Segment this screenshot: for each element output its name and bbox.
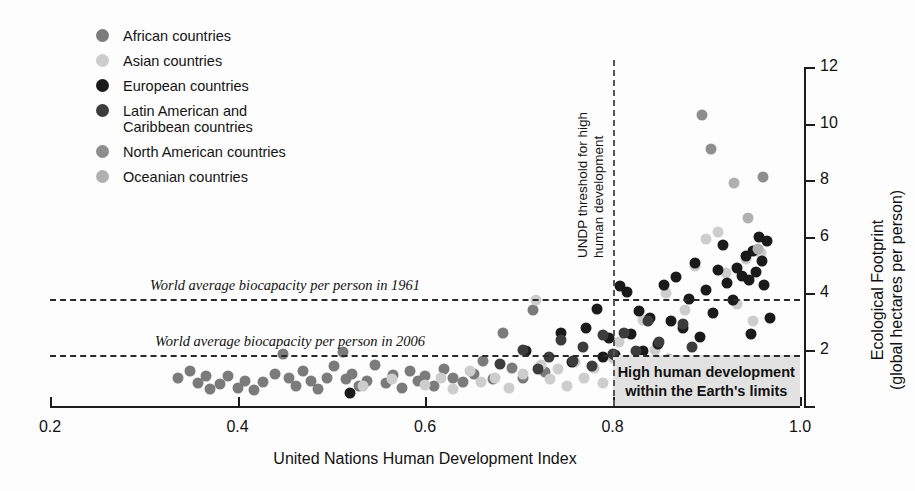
data-point xyxy=(679,304,690,315)
y-axis-title: Ecological Footprint (global hectares pe… xyxy=(868,190,906,390)
data-point xyxy=(598,378,609,389)
y-tick-12 xyxy=(804,67,815,69)
biocapacity-1961-label: World average biocapacity per person in … xyxy=(150,277,420,294)
y-tick-6 xyxy=(804,237,815,239)
x-axis-title: United Nations Human Development Index xyxy=(273,450,576,468)
data-point xyxy=(752,244,763,255)
data-point xyxy=(643,316,654,327)
data-point xyxy=(694,331,705,342)
data-point xyxy=(555,334,566,345)
data-point xyxy=(321,372,332,383)
data-point xyxy=(765,313,776,324)
data-point xyxy=(712,227,723,238)
data-point xyxy=(532,364,543,375)
plot-area xyxy=(0,0,915,491)
data-point xyxy=(746,328,757,339)
data-point xyxy=(448,384,459,395)
data-point xyxy=(743,213,754,224)
data-point xyxy=(313,384,324,395)
y-tick-0 xyxy=(804,406,815,408)
data-point xyxy=(507,362,518,373)
data-point xyxy=(561,381,572,392)
data-point xyxy=(457,376,468,387)
data-point xyxy=(591,303,602,314)
data-point xyxy=(705,143,716,154)
data-point xyxy=(518,368,529,379)
data-point xyxy=(577,341,588,352)
data-point xyxy=(223,371,234,382)
biocapacity-2006-line xyxy=(50,355,800,357)
data-point xyxy=(184,365,195,376)
data-point xyxy=(633,306,644,317)
data-point xyxy=(690,258,701,269)
data-point xyxy=(748,316,759,327)
x-tick-label-0.6: 0.6 xyxy=(414,418,436,436)
data-point xyxy=(756,255,767,266)
data-point xyxy=(701,234,712,245)
data-point xyxy=(405,365,416,376)
data-point xyxy=(659,279,670,290)
biocapacity-1961-line xyxy=(50,299,800,301)
data-point xyxy=(544,374,555,385)
data-point xyxy=(490,372,501,383)
data-point xyxy=(579,372,590,383)
data-point xyxy=(495,358,506,369)
data-point xyxy=(586,361,597,372)
y-tick-label-12: 12 xyxy=(820,57,838,75)
data-point xyxy=(687,341,698,352)
data-point xyxy=(712,265,723,276)
y-tick-label-4: 4 xyxy=(820,283,829,301)
undp-threshold-line xyxy=(613,60,615,406)
data-point xyxy=(665,316,676,327)
data-point xyxy=(518,344,529,355)
data-point xyxy=(270,368,281,379)
data-point xyxy=(257,376,268,387)
biocapacity-2006-label: World average biocapacity per person in … xyxy=(155,333,425,350)
data-point xyxy=(759,279,770,290)
data-point xyxy=(476,376,487,387)
y-tick-label-10: 10 xyxy=(820,114,838,132)
x-axis-spine xyxy=(50,406,800,408)
data-point xyxy=(654,337,665,348)
x-tick-label-1.0: 1.0 xyxy=(789,418,811,436)
data-point xyxy=(701,285,712,296)
x-tick-label-0.8: 0.8 xyxy=(601,418,623,436)
data-point xyxy=(172,372,183,383)
data-point xyxy=(707,307,718,318)
data-point xyxy=(750,266,761,277)
y-tick-label-8: 8 xyxy=(820,170,829,188)
data-point xyxy=(370,360,381,371)
x-tick-0.6 xyxy=(425,397,427,406)
x-tick-1.0 xyxy=(800,397,802,406)
data-point xyxy=(621,286,632,297)
data-point xyxy=(618,327,629,338)
data-point xyxy=(598,330,609,341)
y-tick-8 xyxy=(804,180,815,182)
data-point xyxy=(757,172,768,183)
data-point xyxy=(290,380,301,391)
data-point xyxy=(249,385,260,396)
ecological-footprint-scatter-figure: African countriesAsian countriesEuropean… xyxy=(0,0,915,491)
data-point xyxy=(581,323,592,334)
data-point xyxy=(465,365,476,376)
data-point xyxy=(527,304,538,315)
y-tick-label-6: 6 xyxy=(820,227,829,245)
data-point xyxy=(553,364,564,375)
safe-region-label: High human development within the Earth'… xyxy=(613,363,801,401)
data-point xyxy=(718,239,729,250)
data-point xyxy=(435,372,446,383)
data-point xyxy=(329,361,340,372)
data-point xyxy=(729,177,740,188)
data-point xyxy=(504,382,515,393)
x-tick-label-0.4: 0.4 xyxy=(226,418,248,436)
y-tick-2 xyxy=(804,350,815,352)
data-point xyxy=(721,278,732,289)
y-tick-label-2: 2 xyxy=(820,340,829,358)
data-point xyxy=(671,272,682,283)
data-point xyxy=(396,382,407,393)
data-point xyxy=(200,371,211,382)
data-point xyxy=(497,327,508,338)
x-tick-0.2 xyxy=(50,397,52,406)
data-point xyxy=(240,375,251,386)
data-point xyxy=(762,235,773,246)
